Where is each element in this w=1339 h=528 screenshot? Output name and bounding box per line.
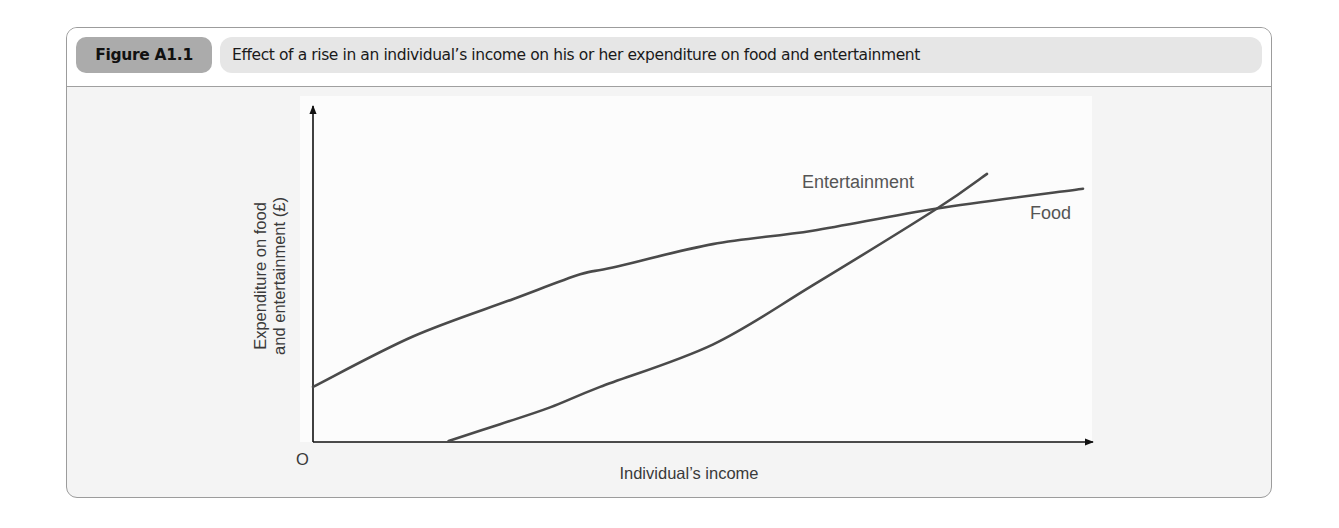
y-axis-label: Expenditure on food and entertainment (£…: [251, 197, 288, 355]
plot-area: [300, 96, 1092, 442]
x-axis-label: Individual’s income: [619, 464, 758, 482]
origin-label: O: [296, 450, 309, 468]
food-label: Food: [1030, 203, 1071, 223]
chart: Entertainment Food O Individual’s income…: [0, 0, 1339, 528]
entertainment-label: Entertainment: [802, 172, 914, 192]
y-axis-label-line-1: Expenditure on food: [251, 202, 269, 350]
y-axis-label-line-2: and entertainment (£): [270, 197, 288, 355]
